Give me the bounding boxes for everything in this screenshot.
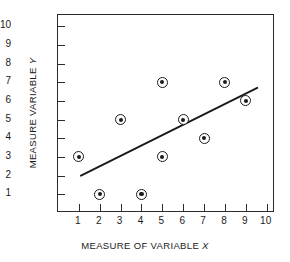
data-point-marker — [157, 77, 168, 88]
trend-line — [58, 15, 275, 213]
y-axis-tick-label: 1 — [0, 188, 11, 198]
x-axis-title-text: MEASURE OF VARIABLE — [81, 240, 202, 251]
y-axis-tick — [58, 82, 65, 83]
y-axis-tick — [58, 176, 65, 177]
y-axis-tick-label: 9 — [0, 39, 11, 49]
y-axis-variable-symbol: Y — [27, 58, 38, 65]
x-axis-tick — [162, 204, 163, 211]
y-axis-tick — [58, 64, 65, 65]
y-axis-tick-label: 2 — [0, 170, 11, 180]
x-axis-tick — [141, 204, 142, 211]
y-axis-tick-label: 7 — [0, 76, 11, 86]
x-axis-tick — [79, 204, 80, 211]
scatter-plot-figure: MEASURE VARIABLE Y MEASURE OF VARIABLE X… — [0, 0, 290, 262]
y-axis-tick — [58, 157, 65, 158]
y-axis-tick — [58, 138, 65, 139]
x-axis-title: MEASURE OF VARIABLE X — [0, 240, 290, 251]
y-axis-tick-label: 3 — [0, 151, 11, 161]
plot-area — [57, 14, 274, 212]
y-axis-tick-label: 4 — [0, 132, 11, 142]
y-axis-title: MEASURE VARIABLE Y — [25, 23, 41, 203]
x-axis-tick — [121, 204, 122, 211]
data-point-marker — [178, 114, 189, 125]
y-axis-tick-label: 5 — [0, 114, 11, 124]
x-axis-tick — [204, 204, 205, 211]
x-axis-tick-label: 10 — [253, 216, 279, 226]
data-point-marker — [199, 133, 210, 144]
y-axis-tick — [58, 45, 65, 46]
y-axis-tick — [58, 26, 65, 27]
y-axis-tick — [58, 120, 65, 121]
y-axis-title-text: MEASURE VARIABLE — [27, 64, 38, 168]
y-axis-tick-label: 8 — [0, 58, 11, 68]
y-axis-tick-label: 6 — [0, 95, 11, 105]
y-axis-tick — [58, 101, 65, 102]
x-axis-tick — [267, 204, 268, 211]
x-axis-variable-symbol: X — [202, 240, 209, 251]
x-axis-tick — [225, 204, 226, 211]
x-axis-tick — [100, 204, 101, 211]
y-axis-tick — [58, 194, 65, 195]
y-axis-tick-label: 10 — [0, 20, 11, 30]
data-point-marker — [94, 189, 105, 200]
data-point-marker — [136, 189, 147, 200]
x-axis-tick — [246, 204, 247, 211]
x-axis-tick — [183, 204, 184, 211]
